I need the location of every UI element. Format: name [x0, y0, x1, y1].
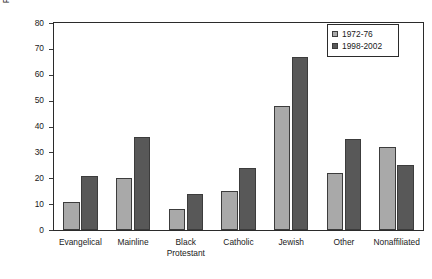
bar — [169, 209, 186, 230]
bar — [292, 57, 309, 230]
bar — [379, 147, 396, 230]
y-axis-title: Percent with a College Degree or More — [0, 0, 14, 36]
bar — [397, 165, 414, 230]
x-axis-tick-label: Nonaffiliated — [362, 237, 432, 248]
y-axis-tick-label: 20 — [20, 174, 44, 183]
y-axis-tick-label: 50 — [20, 96, 44, 105]
legend-item: 1998-2002 — [332, 40, 394, 52]
bar — [187, 194, 204, 230]
bar — [345, 139, 362, 230]
bar-group — [116, 23, 151, 230]
y-axis-tick-label: 30 — [20, 148, 44, 157]
legend-item-label: 1972-76 — [342, 29, 373, 39]
bar — [116, 178, 133, 230]
bar — [81, 176, 98, 230]
bar — [274, 106, 291, 230]
legend-color-swatch — [332, 31, 338, 37]
y-axis-tick-label: 10 — [20, 200, 44, 209]
y-axis-tick-label: 60 — [20, 70, 44, 79]
legend-item: 1972-76 — [332, 28, 394, 40]
y-axis-tick-label: 80 — [20, 19, 44, 28]
bar-group — [63, 23, 98, 230]
legend-color-swatch — [332, 43, 338, 49]
y-axis-tick-label: 70 — [20, 44, 44, 53]
y-axis-tick-label: 0 — [20, 226, 44, 235]
y-axis-tick-label: 40 — [20, 122, 44, 131]
bar — [239, 168, 256, 230]
bar — [327, 173, 344, 230]
chart-legend: 1972-761998-2002 — [327, 24, 399, 57]
bar-group — [221, 23, 256, 230]
bar-group — [274, 23, 309, 230]
bar-group — [169, 23, 204, 230]
bar-chart-figure: Percent with a College Degree or More 01… — [0, 0, 432, 279]
bar — [221, 191, 238, 230]
legend-item-label: 1998-2002 — [342, 41, 382, 51]
bar — [63, 202, 80, 230]
bar — [134, 137, 151, 230]
